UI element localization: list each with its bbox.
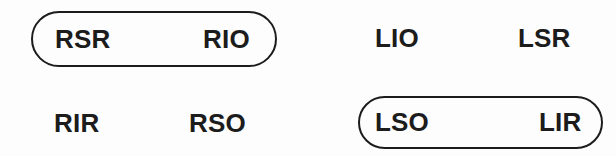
label-rio: RIO — [203, 26, 250, 52]
label-lso: LSO — [375, 109, 429, 135]
muscle-diagram: RSR RIO LIO LSR RIR RSO LSO LIR — [0, 0, 616, 156]
label-lio: LIO — [375, 25, 419, 51]
label-lsr: LSR — [518, 25, 571, 51]
label-lir: LIR — [539, 109, 581, 135]
label-rsr: RSR — [55, 26, 111, 52]
label-rir: RIR — [54, 110, 99, 136]
label-rso: RSO — [189, 110, 246, 136]
